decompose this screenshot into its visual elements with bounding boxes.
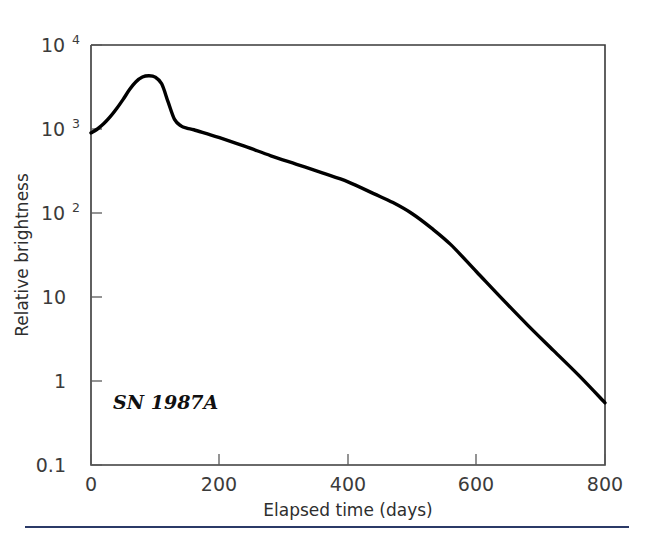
light-curve-chart: 10 4 10 3 10 2 10 1 0.1 0 200 400 600 80… — [0, 0, 649, 537]
x-tick-label-200: 200 — [201, 473, 237, 495]
x-tick-label-800: 800 — [587, 473, 623, 495]
x-tick-labels: 0 200 400 600 800 — [85, 473, 623, 495]
y-tick-label-100-base: 10 — [41, 202, 65, 224]
y-tick-label-10000-base: 10 — [41, 34, 65, 56]
y-tick-label-1: 1 — [54, 370, 66, 392]
y-tick-label-1000-exponent: 3 — [72, 116, 80, 131]
y-tick-label-10: 10 — [42, 286, 66, 308]
x-tick-label-0: 0 — [85, 473, 97, 495]
y-tick-label-0-1: 0.1 — [36, 454, 66, 476]
x-axis-title: Elapsed time (days) — [263, 500, 432, 520]
y-axis-ticks — [91, 45, 102, 465]
y-tick-label-1000-base: 10 — [41, 118, 65, 140]
y-tick-labels: 10 4 10 3 10 2 10 1 0.1 — [36, 32, 80, 476]
bottom-divider-rule — [25, 526, 629, 528]
y-tick-label-10000-exponent: 4 — [72, 32, 80, 47]
y-tick-label-100-exponent: 2 — [72, 200, 80, 215]
figure-container: 10 4 10 3 10 2 10 1 0.1 0 200 400 600 80… — [0, 0, 649, 537]
x-tick-label-600: 600 — [458, 473, 494, 495]
x-tick-label-400: 400 — [330, 473, 366, 495]
x-axis-ticks — [91, 454, 605, 465]
light-curve-path — [91, 76, 605, 403]
series-annotation-sn1987a: SN 1987A — [113, 391, 218, 413]
y-axis-title: Relative brightness — [12, 173, 32, 337]
